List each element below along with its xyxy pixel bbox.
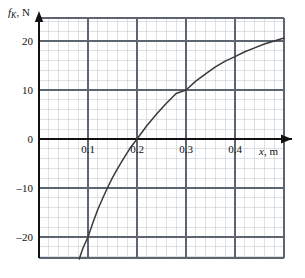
- y-axis-title-unit: , N: [16, 6, 30, 18]
- y-tick-label-20: 20: [22, 35, 34, 47]
- x-axis-title: x, m: [258, 145, 278, 157]
- x-tick-label-0.1: 0.1: [81, 143, 95, 155]
- x-tick-label-0.2: 0.2: [130, 143, 144, 155]
- x-tick-label-0.4: 0.4: [228, 143, 242, 155]
- y-tick-label-neg10: –10: [16, 182, 34, 194]
- svg-text:x, m: x, m: [258, 145, 278, 157]
- x-axis-title-unit: , m: [264, 145, 279, 157]
- x-tick-label-0.3: 0.3: [179, 143, 193, 155]
- graph-figure: 0.1 0.2 0.3 0.4 20 10 0 –10 –20 fK, N x,…: [0, 0, 305, 278]
- y-tick-label-10: 10: [22, 84, 34, 96]
- y-tick-label-0: 0: [28, 133, 34, 145]
- y-tick-label-neg20: –20: [16, 231, 34, 243]
